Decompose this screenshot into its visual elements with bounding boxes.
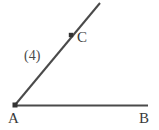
label-point-a: A <box>8 111 19 126</box>
vertex-a-marker <box>13 103 18 108</box>
label-point-b: B <box>139 111 149 126</box>
point-c-marker <box>69 33 73 37</box>
label-point-c: C <box>77 30 87 45</box>
angle-figure: A B C (4) <box>0 0 159 130</box>
geometry-canvas <box>0 0 159 130</box>
label-segment-measure: (4) <box>24 49 40 63</box>
